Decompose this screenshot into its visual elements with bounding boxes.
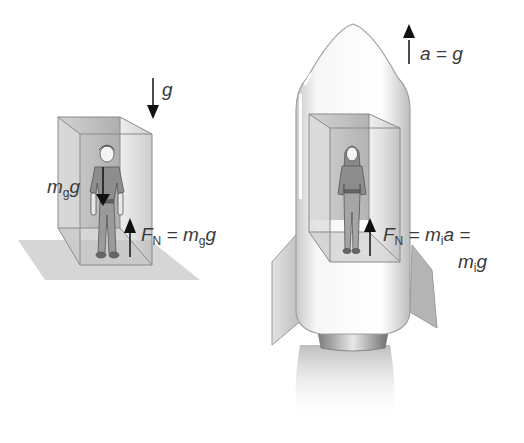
normal-force-label-right: FN = mia = bbox=[383, 225, 470, 247]
rocket-exhaust bbox=[295, 345, 394, 420]
rocket-fin-right bbox=[410, 245, 437, 328]
earth-room bbox=[18, 78, 200, 280]
acceleration-arrow bbox=[403, 24, 415, 64]
acceleration-label: a = g bbox=[420, 44, 463, 63]
rocket-nozzle bbox=[318, 332, 388, 351]
gravity-label: g bbox=[162, 80, 173, 99]
weight-label: mgg bbox=[47, 177, 80, 199]
rocket bbox=[272, 24, 437, 420]
gravity-arrow bbox=[147, 78, 159, 119]
equivalence-principle-diagram bbox=[0, 0, 524, 443]
normal-force-label-left: FN = mgg bbox=[141, 225, 216, 247]
normal-force-label-right-line2: mig bbox=[458, 252, 487, 274]
